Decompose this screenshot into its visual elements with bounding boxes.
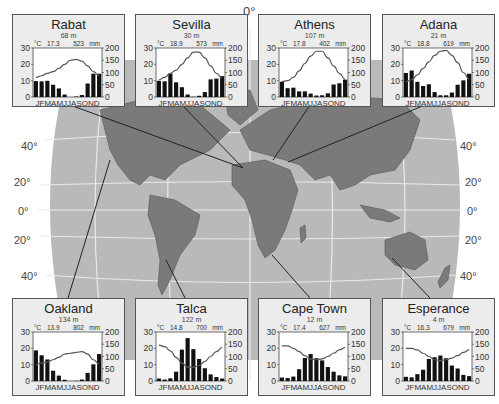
svg-text:16.3: 16.3 bbox=[417, 324, 430, 331]
svg-text:700: 700 bbox=[196, 324, 207, 331]
climate-chart-plot: °C18.9573mm0102030050100150200JFMAMJJASO… bbox=[136, 40, 247, 110]
svg-text:50: 50 bbox=[105, 364, 115, 374]
svg-text:100: 100 bbox=[351, 68, 365, 78]
svg-text:0: 0 bbox=[475, 376, 480, 386]
svg-text:°C: °C bbox=[280, 40, 288, 47]
svg-text:619: 619 bbox=[443, 40, 454, 47]
chart-title: Talca bbox=[136, 302, 247, 316]
svg-text:50: 50 bbox=[105, 80, 115, 90]
svg-text:17.4: 17.4 bbox=[293, 324, 306, 331]
svg-text:50: 50 bbox=[351, 80, 361, 90]
climate-chart-athens: Athens107 m°C17.8402mm010203005010015020… bbox=[258, 14, 371, 107]
chart-elevation: 68 m bbox=[13, 32, 124, 40]
svg-text:°C: °C bbox=[34, 324, 42, 331]
svg-text:523: 523 bbox=[73, 40, 84, 47]
svg-text:150: 150 bbox=[105, 339, 119, 349]
svg-text:679: 679 bbox=[443, 324, 454, 331]
svg-text:JFMAMJJASOND: JFMAMJJASOND bbox=[36, 99, 100, 108]
svg-text:JFMAMJJASOND: JFMAMJJASOND bbox=[159, 99, 223, 108]
svg-text:200: 200 bbox=[475, 327, 489, 337]
svg-text:30: 30 bbox=[144, 43, 154, 53]
svg-text:0: 0 bbox=[228, 376, 233, 386]
svg-text:20: 20 bbox=[21, 343, 31, 353]
svg-text:150: 150 bbox=[351, 55, 365, 65]
chart-elevation: 134 m bbox=[13, 316, 124, 324]
climate-chart-adana: Adana21 m°C18.8619mm0102030050100150200J… bbox=[382, 14, 495, 107]
svg-text:17.8: 17.8 bbox=[293, 40, 306, 47]
lat-label-right-20s: 20° bbox=[465, 234, 482, 246]
chart-title: Athens bbox=[259, 18, 370, 32]
svg-text:JFMAMJJASOND: JFMAMJJASOND bbox=[282, 383, 346, 392]
svg-text:150: 150 bbox=[475, 339, 489, 349]
svg-text:18.9: 18.9 bbox=[170, 40, 183, 47]
svg-text:100: 100 bbox=[475, 352, 489, 362]
svg-text:JFMAMJJASOND: JFMAMJJASOND bbox=[406, 383, 470, 392]
svg-text:10: 10 bbox=[144, 76, 154, 86]
svg-text:mm: mm bbox=[212, 324, 223, 331]
chart-elevation: 107 m bbox=[259, 32, 370, 40]
svg-text:30: 30 bbox=[267, 43, 277, 53]
svg-text:30: 30 bbox=[21, 327, 31, 337]
chart-elevation: 30 m bbox=[136, 32, 247, 40]
svg-text:200: 200 bbox=[351, 43, 365, 53]
svg-text:50: 50 bbox=[351, 364, 361, 374]
svg-text:573: 573 bbox=[196, 40, 207, 47]
climate-chart-esperance: Esperance4 m°C16.3679mm01020300501001502… bbox=[382, 298, 495, 396]
chart-elevation: 4 m bbox=[383, 316, 494, 324]
chart-elevation: 122 m bbox=[136, 316, 247, 324]
climate-chart-talca: Talca122 m°C14.8700mm0102030050100150200… bbox=[135, 298, 248, 396]
svg-text:10: 10 bbox=[21, 360, 31, 370]
svg-text:100: 100 bbox=[228, 352, 242, 362]
svg-text:30: 30 bbox=[144, 327, 154, 337]
svg-text:50: 50 bbox=[228, 80, 238, 90]
chart-elevation: 12 m bbox=[259, 316, 370, 324]
svg-text:17.3: 17.3 bbox=[47, 40, 60, 47]
svg-text:100: 100 bbox=[228, 68, 242, 78]
svg-text:JFMAMJJASOND: JFMAMJJASOND bbox=[159, 383, 223, 392]
climate-chart-plot: °C17.8402mm0102030050100150200JFMAMJJASO… bbox=[259, 40, 370, 110]
svg-text:°C: °C bbox=[157, 324, 165, 331]
svg-text:0: 0 bbox=[351, 376, 356, 386]
svg-text:mm: mm bbox=[212, 40, 223, 47]
svg-text:JFMAMJJASOND: JFMAMJJASOND bbox=[406, 99, 470, 108]
chart-title: Sevilla bbox=[136, 18, 247, 32]
svg-text:802: 802 bbox=[73, 324, 84, 331]
svg-text:30: 30 bbox=[391, 327, 401, 337]
svg-text:20: 20 bbox=[267, 59, 277, 69]
climate-chart-cape-town: Cape Town12 m°C17.4627mm0102030050100150… bbox=[258, 298, 371, 396]
climate-chart-plot: °C18.8619mm0102030050100150200JFMAMJJASO… bbox=[383, 40, 494, 110]
svg-text:100: 100 bbox=[105, 352, 119, 362]
climate-chart-plot: °C16.3679mm0102030050100150200JFMAMJJASO… bbox=[383, 324, 494, 394]
svg-text:200: 200 bbox=[228, 327, 242, 337]
climate-chart-plot: °C14.8700mm0102030050100150200JFMAMJJASO… bbox=[136, 324, 247, 394]
svg-text:10: 10 bbox=[21, 76, 31, 86]
climate-chart-sevilla: Sevilla30 m°C18.9573mm010203005010015020… bbox=[135, 14, 248, 107]
svg-text:mm: mm bbox=[459, 40, 470, 47]
svg-text:0: 0 bbox=[105, 376, 110, 386]
svg-text:0: 0 bbox=[351, 92, 356, 102]
svg-text:0: 0 bbox=[25, 376, 30, 386]
svg-text:200: 200 bbox=[105, 327, 119, 337]
svg-text:627: 627 bbox=[319, 324, 330, 331]
svg-text:30: 30 bbox=[267, 327, 277, 337]
svg-text:100: 100 bbox=[105, 68, 119, 78]
svg-text:°C: °C bbox=[157, 40, 165, 47]
lat-label-left-40s: 40° bbox=[21, 270, 38, 282]
svg-text:150: 150 bbox=[475, 55, 489, 65]
svg-text:10: 10 bbox=[267, 360, 277, 370]
svg-text:mm: mm bbox=[459, 324, 470, 331]
svg-text:402: 402 bbox=[319, 40, 330, 47]
lat-label-left-20s: 20° bbox=[14, 234, 31, 246]
chart-title: Cape Town bbox=[259, 302, 370, 316]
svg-text:0: 0 bbox=[475, 92, 480, 102]
climate-chart-rabat: Rabat68 m°C17.3523mm0102030050100150200J… bbox=[12, 14, 125, 107]
svg-text:mm: mm bbox=[89, 40, 100, 47]
svg-text:JFMAMJJASOND: JFMAMJJASOND bbox=[282, 99, 346, 108]
svg-text:20: 20 bbox=[391, 59, 401, 69]
svg-text:10: 10 bbox=[144, 360, 154, 370]
svg-text:0: 0 bbox=[148, 376, 153, 386]
svg-text:20: 20 bbox=[144, 343, 154, 353]
svg-text:20: 20 bbox=[267, 343, 277, 353]
lat-label-right-20n: 20° bbox=[465, 176, 482, 188]
svg-text:30: 30 bbox=[21, 43, 31, 53]
